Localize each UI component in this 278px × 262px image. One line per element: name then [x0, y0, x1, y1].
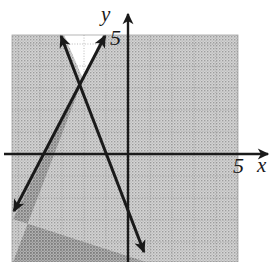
x-axis-tick-label-5: 5 [233, 155, 244, 177]
x-axis-label: x [257, 155, 266, 176]
coordinate-plane-svg [0, 0, 278, 262]
y-axis-tick-label-5: 5 [110, 27, 121, 49]
y-axis-label: y [101, 4, 110, 25]
graph-figure: y x 5 5 [0, 0, 278, 262]
shaded-regions [10, 30, 238, 262]
